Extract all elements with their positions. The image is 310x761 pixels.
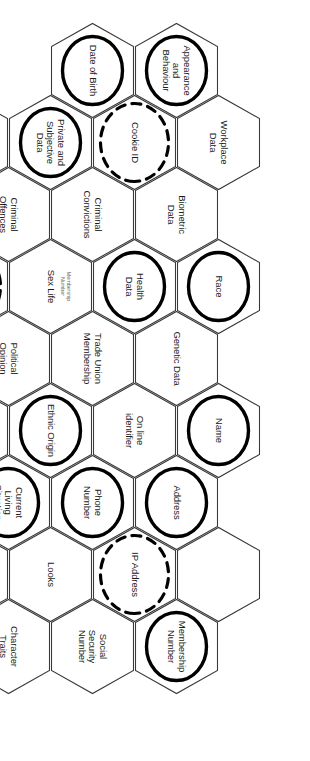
hex-label-date-of-birth: Date of Birth: [87, 30, 98, 110]
honeycomb-rotor: Appearance and BehaviourDate of BirthWor…: [0, 0, 310, 761]
hex-label-appearance-and-behaviour: Appearance and Behaviour: [160, 30, 192, 110]
hex-label-biometric-data: Biometric Data: [166, 174, 187, 254]
hex-label-workplace-data: Workplace Data: [208, 102, 229, 182]
hex-label-political-opinion: Political Opinion: [0, 318, 19, 398]
hex-label-genetic-data: Genetic Data: [171, 318, 182, 398]
hex-label-on-line-identifier: On line identifier: [124, 390, 145, 470]
hex-label-trade-union-membership: Trade Union Membership: [82, 318, 103, 398]
hex-cell-social-security-number[interactable]: Social Security Number: [50, 598, 134, 694]
hex-label-current-living-situation: Current Living Situation: [0, 462, 24, 542]
hex-label-name: Name: [213, 390, 224, 470]
hex-label-character-traits: Character Traits: [0, 606, 19, 686]
hex-label-social-security-number: Social Security Number: [76, 606, 108, 686]
hex-label-race: Race: [213, 246, 224, 326]
hex-sublabel-sex-life: Membership Number: [59, 246, 71, 326]
hex-label-cookie-id: Cookie ID: [129, 102, 140, 182]
hex-cell-membership-number[interactable]: Membership Number: [134, 598, 218, 694]
hex-label-health-data: Health Data: [124, 246, 145, 326]
honeycomb-grid: Appearance and BehaviourDate of BirthWor…: [0, 0, 310, 761]
hex-label-ethnic-origin: Ethnic Origin: [45, 390, 56, 470]
hex-label-criminal-convictions: Criminal Convictions: [82, 174, 103, 254]
hex-label-address: Address: [171, 462, 182, 542]
hex-label-phone-number: Phone Number: [82, 462, 103, 542]
hex-label-membership-number: Membership Number: [166, 606, 187, 686]
hex-cell-character-traits[interactable]: Character Traits: [0, 598, 50, 694]
hex-label-sex-life: Sex Life: [45, 246, 56, 326]
hex-label-criminal-offences: Criminal Offences: [0, 174, 19, 254]
hex-label-private-and-subjective-data: Private and Subjective Data: [34, 102, 66, 182]
hex-label-looks: Looks: [45, 534, 56, 614]
diagram-canvas: Appearance and BehaviourDate of BirthWor…: [0, 0, 310, 761]
hex-label-ip-address: IP Address: [129, 534, 140, 614]
